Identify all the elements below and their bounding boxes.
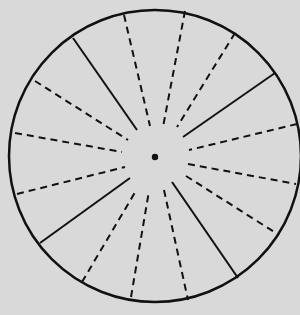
dashed-radial-line (82, 189, 137, 282)
dashed-radial-line (35, 81, 128, 140)
dashed-radial-line (186, 176, 279, 235)
radial-diagram (0, 0, 300, 315)
dashed-radial-line (177, 33, 235, 127)
dashed-radial-line (15, 133, 122, 152)
dashed-radial-line (17, 167, 125, 194)
dashed-radial-line (131, 191, 149, 297)
dashed-radial-line (163, 11, 185, 127)
center-dot (152, 154, 158, 160)
dashed-radial-line (164, 190, 188, 300)
dashed-radial-line (189, 124, 297, 150)
dashed-radial-line (124, 15, 150, 126)
solid-radial-line (172, 182, 238, 278)
dashed-radial-line (188, 164, 296, 184)
solid-radial-line (40, 178, 130, 243)
solid-radial-line (73, 38, 137, 130)
solid-radial-line (183, 73, 275, 137)
